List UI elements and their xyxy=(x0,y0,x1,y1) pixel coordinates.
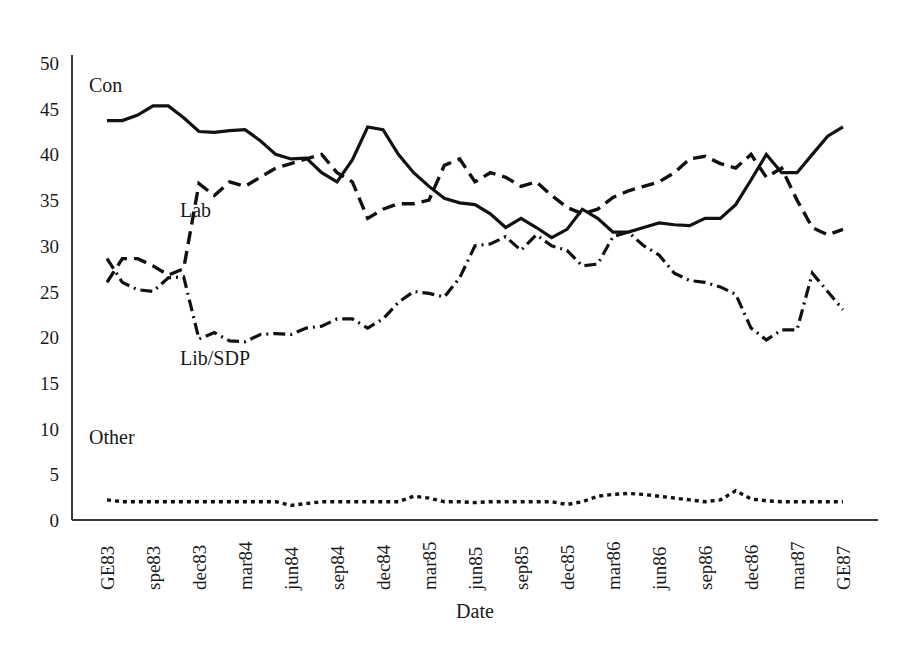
y-tick-label: 40 xyxy=(40,144,59,165)
x-tick-label: dec84 xyxy=(373,544,394,590)
series-line-lib-sdp xyxy=(107,232,843,342)
x-tick-label: GE87 xyxy=(833,546,854,590)
x-axis-title: Date xyxy=(456,600,494,622)
x-tick-label: dec83 xyxy=(189,545,210,590)
x-tick-label: mar85 xyxy=(419,541,440,590)
x-tick-label: sep84 xyxy=(327,545,348,590)
series-line-other xyxy=(107,491,843,506)
x-tick-label: dec86 xyxy=(741,545,762,590)
series-line-con xyxy=(107,106,843,238)
poll-trend-chart: 05101520253035404550 GE83spe83dec83mar84… xyxy=(0,0,923,650)
y-tick-label: 30 xyxy=(40,236,59,257)
y-tick-label: 15 xyxy=(40,373,59,394)
x-tick-label: dec85 xyxy=(557,545,578,590)
x-axis: GE83spe83dec83mar84jun84sep84dec84mar85j… xyxy=(72,520,878,591)
y-tick-label: 45 xyxy=(40,99,59,120)
y-axis: 05101520253035404550 xyxy=(40,53,72,531)
series-label-other: Other xyxy=(89,426,135,448)
y-tick-label: 50 xyxy=(40,53,59,74)
y-tick-label: 35 xyxy=(40,190,59,211)
x-tick-labels: GE83spe83dec83mar84jun84sep84dec84mar85j… xyxy=(97,541,854,591)
x-tick-label: mar86 xyxy=(603,541,624,590)
x-tick-label: jun84 xyxy=(281,546,302,591)
series-label-lib-sdp: Lib/SDP xyxy=(180,347,250,369)
series-line-lab xyxy=(107,154,843,282)
x-tick-label: GE83 xyxy=(97,546,118,590)
x-tick-label: jun85 xyxy=(465,547,486,591)
y-tick-label: 0 xyxy=(50,510,60,531)
y-tick-label: 5 xyxy=(50,464,60,485)
series-label-con: Con xyxy=(89,74,122,96)
y-tick-labels: 05101520253035404550 xyxy=(40,53,59,531)
x-tick-label: spe83 xyxy=(143,546,164,590)
series-paths xyxy=(107,106,843,505)
x-tick-label: mar87 xyxy=(787,541,808,590)
y-tick-label: 25 xyxy=(40,282,59,303)
x-tick-label: jun86 xyxy=(649,547,670,591)
y-tick-label: 10 xyxy=(40,419,59,440)
series-label-lab: Lab xyxy=(180,199,211,221)
x-tick-label: sep85 xyxy=(511,546,532,590)
x-tick-label: sep86 xyxy=(695,546,716,590)
y-tick-label: 20 xyxy=(40,327,59,348)
chart-canvas: 05101520253035404550 GE83spe83dec83mar84… xyxy=(0,0,923,650)
x-tick-label: mar84 xyxy=(235,541,256,590)
